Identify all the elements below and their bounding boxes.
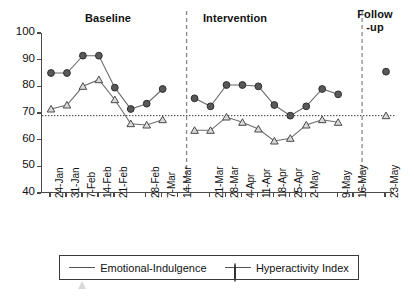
hyperactivity-index-point <box>143 100 150 107</box>
hyperactivity-index-point <box>303 103 310 110</box>
x-axis-tick-mark <box>337 193 338 197</box>
x-axis-tick-mark <box>225 193 226 197</box>
y-axis-tick-label: 50 <box>5 158 35 170</box>
hyperactivity-index-point <box>191 95 198 102</box>
y-axis-tick-label: 90 <box>5 52 35 64</box>
x-axis-tick-label: 24-Jan <box>54 167 65 198</box>
x-axis-tick-mark <box>161 193 162 197</box>
hyperactivity-index-point <box>111 84 118 91</box>
x-axis-tick-label: 31-Jan <box>70 167 81 198</box>
emotional-indulgence-point <box>79 83 87 90</box>
x-axis-tick-mark <box>177 193 178 197</box>
x-axis-tick-label: 21-Mar <box>214 166 225 198</box>
y-axis-tick-mark <box>37 112 41 113</box>
x-axis-tick-mark <box>305 193 306 197</box>
chart-legend: Emotional-Indulgence Hyperactivity Index <box>59 255 359 280</box>
x-axis-tick-mark <box>97 193 98 197</box>
hyperactivity-index-point <box>48 70 55 77</box>
x-axis-tick-label: 4-Apr <box>245 174 256 198</box>
x-axis-tick-mark <box>257 193 258 197</box>
legend-marker-circle-icon <box>225 263 251 273</box>
emotional-indulgence-point <box>318 116 326 123</box>
x-axis-tick-mark <box>384 193 385 197</box>
hyperactivity-index-point <box>64 70 71 77</box>
x-axis-tick-label: 16-May <box>357 165 368 198</box>
emotional-indulgence-point <box>255 125 263 132</box>
x-axis-tick-mark <box>65 193 66 197</box>
x-axis-tick-mark <box>49 193 50 197</box>
y-axis-tick-mark <box>37 59 41 60</box>
x-axis-tick-mark <box>273 193 274 197</box>
x-axis-tick-mark <box>145 193 146 197</box>
emotional-indulgence-point <box>302 121 310 128</box>
emotional-indulgence-point <box>95 76 103 83</box>
phase-label-baseline: Baseline <box>68 12 148 24</box>
hyperactivity-index-point <box>319 86 326 93</box>
hyperactivity-index-point <box>255 83 262 90</box>
legend-item-emotional-indulgence: Emotional-Indulgence <box>69 262 206 274</box>
x-axis-tick-label: 28-Feb <box>150 166 161 198</box>
x-axis-tick-label: 2-May <box>309 170 320 198</box>
hyperactivity-index-point <box>335 91 342 98</box>
emotional-indulgence-point <box>223 113 231 120</box>
legend-label-hyperactivity-index: Hyperactivity Index <box>256 262 349 274</box>
hyperactivity-index-line <box>195 85 339 116</box>
hyperactivity-index-point <box>207 103 214 110</box>
y-axis-tick-label: 60 <box>5 132 35 144</box>
phase-label-intervention: Intervention <box>185 12 285 24</box>
phase-label-followup-line1: Follow <box>345 8 405 20</box>
x-axis-tick-label: 11-Apr <box>261 169 272 198</box>
y-axis-tick-label: 40 <box>5 185 35 197</box>
emotional-indulgence-point <box>159 116 167 123</box>
x-axis-tick-mark <box>241 193 242 197</box>
y-axis-tick-mark <box>37 139 41 140</box>
emotional-indulgence-point <box>239 119 247 126</box>
y-axis-tick-mark <box>37 166 41 167</box>
x-axis-tick-label: 9-May <box>341 170 352 198</box>
y-axis-tick-mark <box>37 86 41 87</box>
hyperactivity-index-point <box>223 82 230 89</box>
x-axis-tick-label: 21-Feb <box>118 166 129 198</box>
x-axis-tick-mark <box>352 193 353 197</box>
x-axis-tick-label: 23-May <box>389 165 400 198</box>
legend-marker-triangle-icon <box>69 263 95 273</box>
x-axis-tick-label: 25-Apr <box>293 168 304 198</box>
y-axis-tick-label: 70 <box>5 105 35 117</box>
x-axis-tick-mark <box>113 193 114 197</box>
x-axis-tick-label: 14-Mar <box>182 166 193 198</box>
phase-label-followup-line2: -up <box>345 21 405 33</box>
hyperactivity-index-point <box>271 102 278 109</box>
legend-item-hyperactivity-index: Hyperactivity Index <box>225 262 349 274</box>
x-axis-tick-mark <box>81 193 82 197</box>
hyperactivity-index-point <box>95 52 102 59</box>
x-axis-tick-mark <box>289 193 290 197</box>
legend-label-emotional-indulgence: Emotional-Indulgence <box>100 262 206 274</box>
y-axis-tick-mark <box>37 192 41 193</box>
hyperactivity-index-point <box>80 52 87 59</box>
x-axis-tick-mark <box>209 193 210 197</box>
x-axis-tick-label: 7-Mar <box>166 172 177 198</box>
hyperactivity-index-point <box>127 106 134 113</box>
x-axis-tick-label: 7-Feb <box>86 172 97 198</box>
hyperactivity-index-point <box>383 68 390 75</box>
hyperactivity-index-point <box>239 82 246 89</box>
hyperactivity-index-point <box>287 112 294 119</box>
x-axis-tick-label: 18-Apr <box>277 168 288 198</box>
emotional-indulgence-point <box>382 112 390 119</box>
y-axis-tick-label: 100 <box>5 25 35 37</box>
x-axis-tick-label: 28-Mar <box>229 166 240 198</box>
y-axis-tick-label: 80 <box>5 78 35 90</box>
chart-root: Baseline Intervention Follow -up 4050607… <box>0 0 414 296</box>
x-axis-tick-label: 14-Feb <box>102 166 113 198</box>
hyperactivity-index-point <box>159 86 166 93</box>
emotional-indulgence-line <box>195 117 339 141</box>
y-axis-tick-mark <box>37 32 41 33</box>
